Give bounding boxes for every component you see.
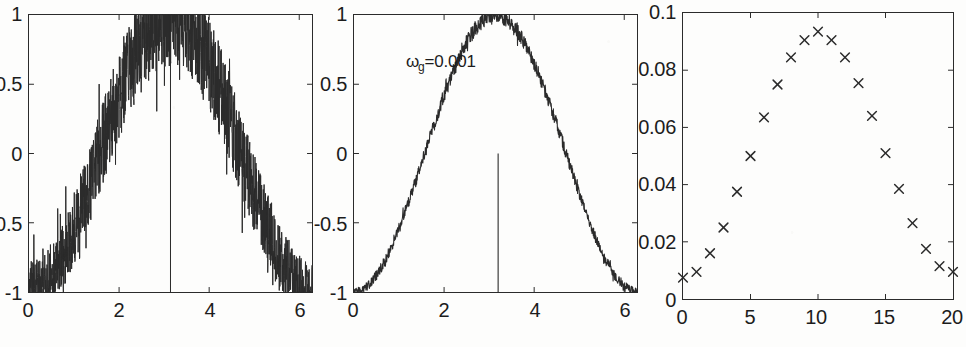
scatter-marker xyxy=(854,79,863,88)
xtick-2-0: 0 xyxy=(343,300,363,320)
scatter-marker xyxy=(692,267,701,276)
ytick-2-2: 0 xyxy=(323,144,347,164)
scatter-marker xyxy=(773,80,782,89)
ytick-3-2: 0.06 xyxy=(622,117,676,137)
omega-g-annotation: ωg=0.001 xyxy=(406,52,476,74)
xtick-1-0: 0 xyxy=(18,300,38,320)
panel-error-scatter: 0.1 0.08 0.06 0.04 0.02 0 0 5 10 15 20 xyxy=(644,0,966,347)
ytick-2-1: 0.5 xyxy=(311,74,347,94)
plot-canvas-1 xyxy=(29,15,312,292)
xtick-3-3: 15 xyxy=(870,307,898,327)
scatter-marker xyxy=(827,36,836,45)
scatter-marker xyxy=(800,36,809,45)
plot-canvas-2 xyxy=(354,15,637,292)
ytick-2-3: -0.5 xyxy=(303,214,347,234)
scatter-marker xyxy=(733,187,742,196)
plot-axes-box-1 xyxy=(28,14,313,293)
xtick-1-1: 2 xyxy=(109,300,129,320)
scatter-marker xyxy=(814,27,823,36)
plot-axes-box-2 xyxy=(353,14,638,293)
scatter-marker xyxy=(719,223,728,232)
scatter-marker xyxy=(868,112,877,121)
ytick-1-0: 1 xyxy=(0,4,22,24)
plot-axes-box-3 xyxy=(682,12,954,300)
plot-canvas-3 xyxy=(683,13,953,299)
scatter-marker xyxy=(881,149,890,158)
ytick-2-0: 1 xyxy=(323,4,347,24)
xtick-3-0: 0 xyxy=(672,307,692,327)
ytick-3-1: 0.08 xyxy=(622,59,676,79)
ytick-3-0: 0.1 xyxy=(634,2,676,22)
ytick-3-3: 0.04 xyxy=(622,174,676,194)
three-panel-figure: 1 0.5 0 -0.5 -1 0 2 4 6 ωg=0.001 1 0.5 0… xyxy=(0,0,966,347)
xtick-3-2: 10 xyxy=(802,307,830,327)
ytick-1-1: 0.5 xyxy=(0,74,22,94)
scatter-marker xyxy=(895,185,904,194)
ytick-1-2: 0 xyxy=(0,144,22,164)
scatter-marker xyxy=(746,152,755,161)
xtick-3-1: 5 xyxy=(740,307,760,327)
xtick-3-4: 20 xyxy=(938,307,966,327)
scatter-marker xyxy=(760,113,769,122)
scatter-marker xyxy=(841,53,850,62)
panel-noisy-cosine-heavy: 1 0.5 0 -0.5 -1 0 2 4 6 xyxy=(0,0,322,347)
scatter-marker xyxy=(935,262,944,271)
scatter-marker xyxy=(908,219,917,228)
xtick-1-3: 6 xyxy=(290,300,310,320)
scatter-marker xyxy=(679,273,688,282)
ytick-3-4: 0.02 xyxy=(622,232,676,252)
xtick-2-2: 4 xyxy=(525,300,545,320)
scatter-marker xyxy=(949,267,958,276)
xtick-2-1: 2 xyxy=(434,300,454,320)
xtick-2-3: 6 xyxy=(615,300,635,320)
ytick-1-3: -0.5 xyxy=(0,214,22,234)
omega-value: =0.001 xyxy=(425,52,476,71)
scatter-marker xyxy=(787,53,796,62)
scatter-marker xyxy=(922,245,931,254)
panel-noisy-cosine-light: ωg=0.001 1 0.5 0 -0.5 -1 0 2 4 6 xyxy=(322,0,644,347)
scatter-marker xyxy=(706,249,715,258)
xtick-1-2: 4 xyxy=(200,300,220,320)
